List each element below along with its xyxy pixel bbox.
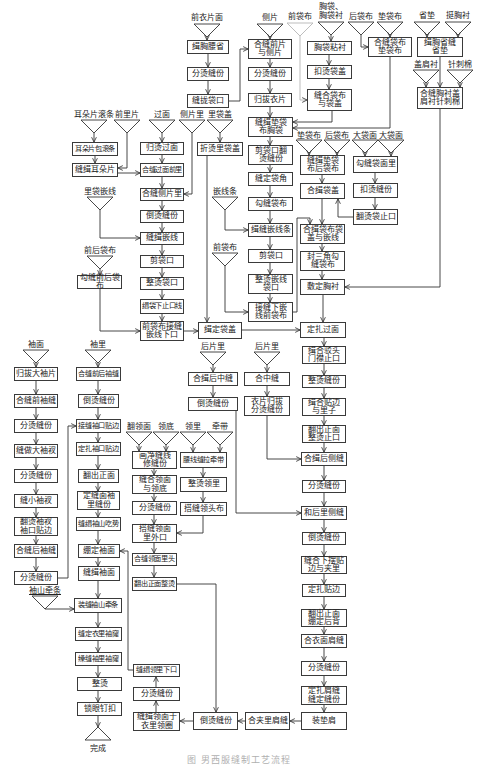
input-triangle-icon <box>413 70 439 83</box>
flow-arrow <box>225 210 248 230</box>
flow-arrow <box>338 199 353 217</box>
sleeve-step-join-lining-seams: 合缝前后袖缝 <box>76 367 121 381</box>
input-label-flap-shell-2: 大袋面 <box>379 131 403 140</box>
assembly-step-press-seam-3: 倒烫缝份 <box>302 532 346 545</box>
finish-step-final-press: 整烫 <box>77 677 122 691</box>
front-step-stitch-chest-dart: 缉胸腰省 <box>187 40 229 54</box>
input-triangle-icon <box>200 352 226 365</box>
pocket-step-cut-press: 剪袋口翻烫缝份 <box>248 145 293 165</box>
input-label-front-pocket-bag-2: 前袋布 <box>213 243 237 252</box>
pocket-step-join-lower-welt: 接缝下嵌线前袋布 <box>248 302 293 322</box>
flow-arrow <box>267 416 301 459</box>
sleeve-step-press-lining-seam: 倒烫缝份 <box>78 394 119 408</box>
sleeve-step-turn-right-side: 翻出正面 <box>78 469 119 483</box>
input-label-needle-felt: 针刺棉 <box>448 60 472 69</box>
pocket-step-join-bag-flap: 缝合袋布与袋盖 <box>307 89 352 111</box>
input-label-chest-pocket: 胸袋、胸袋衬 <box>318 2 344 20</box>
pocket-step-join-bag-facing: 合缝袋布垫袋布 <box>368 37 412 57</box>
input-triangle-icon <box>126 432 152 445</box>
sleeve-step-join-hem-facing: 接缝袖口贴边 <box>76 419 121 433</box>
pocket-step-sew-welt-strip: 缉缝嵌线条 <box>248 223 293 237</box>
collar-step-press-seam-2: 分烫缝份 <box>133 687 180 701</box>
assembly-step-attach-shoulder-pad: 装垫肩 <box>301 712 347 730</box>
flow-arrow <box>118 133 127 168</box>
pocket-step-join-bag-flap-welt: 合缉袋布袋盖与嵌线 <box>300 224 345 244</box>
sleeve-step-fix-shell-lining-seam: 定缝面袖里缝份 <box>77 491 120 510</box>
input-label-shoulder-canvas: 盖肩衬 <box>414 60 438 69</box>
flow-arrow <box>100 289 140 331</box>
input-triangle-icon <box>447 70 473 83</box>
input-label-back-pocket-bag: 后袋布 <box>349 12 373 21</box>
assembly-step-join-facing-lining: 缉合贴边与里子 <box>302 398 346 416</box>
assembly-step-press-seam-4: 分烫缝份 <box>301 661 347 676</box>
sleeve-step-baste-hem-facing: 定扎袖口贴边 <box>76 442 121 456</box>
lining-step-press-seam: 倒烫缝份 <box>140 210 184 223</box>
input-label-pocket-facing-2: 垫袋布 <box>297 131 321 140</box>
assembly-step-fix-shoulder-seam: 定扎肩缝缝定缝份 <box>301 686 347 705</box>
sleeve-step-press-seam-3: 分烫缝份 <box>14 571 58 585</box>
flow-arrow <box>300 36 307 100</box>
input-triangle-icon <box>207 432 233 445</box>
pocket-step-sew-bag: 勾缝袋布 <box>248 197 293 211</box>
flow-arrow <box>100 210 140 238</box>
input-triangle-icon <box>180 432 206 445</box>
finish-triangle-icon <box>85 727 111 740</box>
input-label-front-back-pocket-bag: 前后袋布 <box>84 246 116 255</box>
assembly-step-baste-hem: 定扎贴边 <box>302 584 346 597</box>
lining-step-sew-ear-piece: 缝缉耳朵片 <box>72 163 118 177</box>
flow-arrow <box>229 49 248 101</box>
input-triangle-icon <box>194 24 220 37</box>
pocket-step-bartack: 封三角勾缝袋布 <box>300 251 345 271</box>
input-triangle-icon <box>23 350 49 363</box>
canvas-step-join-chest-canvas: 合缝胸衬盖肩衬针刺棉 <box>417 87 463 109</box>
input-triangle-icon <box>378 140 404 153</box>
input-label-front-panel: 前衣片面 <box>191 13 223 22</box>
process-flowchart: 前衣片面 侧片 前袋布 胸袋、胸袋衬 后袋布 垫袋布 省垫 挺胸衬 盖肩衬 针刺… <box>0 0 478 765</box>
input-triangle-icon <box>296 140 322 153</box>
input-label-inner-flap: 里袋盖 <box>208 110 232 119</box>
sleeve-step-attach-head-strip: 装缝袖山牵条 <box>74 598 122 613</box>
input-label-front-lining: 前里片 <box>115 110 139 119</box>
finish-step-buttonholes-buttons: 锁眼钉扣 <box>77 702 122 716</box>
assembly-step-join-lining-shoulder: 合夹里肩缝 <box>245 712 290 730</box>
input-label-top-collar: 翻领面 <box>127 422 151 431</box>
input-triangle-icon <box>257 24 283 37</box>
assembly-step-press-seam-2: 分烫缝份 <box>302 480 346 493</box>
sleeve-step-set-sleeve: 缝缉袖面 <box>78 566 120 581</box>
input-triangle-icon <box>85 350 111 363</box>
sleeve-step-join-front-seam: 合缝前袖缝 <box>14 394 58 408</box>
input-label-inner-welt: 里袋嵌线 <box>84 187 116 196</box>
collar-step-turn-press: 翻出正面整烫 <box>132 577 177 591</box>
lining-step-stitch-lower-edge: 缉袋下止口线 <box>140 299 184 314</box>
input-triangle-icon <box>212 253 238 266</box>
input-triangle-icon <box>32 596 58 609</box>
input-label-welt-strip: 嵌线条 <box>213 187 237 196</box>
flow-arrow <box>58 426 76 578</box>
collar-step-join-top-base: 缝合领面与领底 <box>132 475 177 494</box>
input-label-back-lining-2: 后片里 <box>255 342 279 351</box>
sleeve-step-join-back-seam: 合缝后袖缝 <box>14 544 58 558</box>
lining-step-join-bag-welt: 前袋布接缝嵌线下口 <box>140 321 184 341</box>
sleeve-step-press-seam-2: 分烫缝份 <box>14 469 58 483</box>
input-label-back-pocket-bag-2: 后袋布 <box>325 131 349 140</box>
sleeve-step-blindstitch-armhole: 缲缝袖里袖窿 <box>75 652 122 666</box>
collar-step-join-collar-cloth: 搭缝领头布 <box>180 502 227 516</box>
back-step-join-center-back: 合缉后中缝 <box>188 372 238 386</box>
sleeve-step-shape-top-sleeve: 归拔大袖片 <box>14 367 58 381</box>
input-triangle-icon <box>87 197 113 210</box>
pocket-step-turn-press-flap: 翻烫袋止口 <box>353 209 398 225</box>
input-triangle-icon <box>212 197 238 210</box>
lining-step-join-facing-lining: 合缝过面前里 <box>140 163 184 177</box>
pocket-step-fix-corner: 缝定袋角 <box>248 172 293 186</box>
back-step-join-center: 合中缝 <box>244 372 290 386</box>
collar-step-press-under-collar: 整烫领里 <box>180 477 227 492</box>
input-label-side-lining: 侧片里 <box>180 110 204 119</box>
input-triangle-icon <box>114 120 140 133</box>
lining-step-press-mouth: 整烫袋口 <box>140 277 184 290</box>
pocket-step-sew-facing-back-bag: 缝缉垫袋布后袋布 <box>300 155 345 175</box>
back-step-shape-press: 衣片归拔分烫缝份 <box>244 396 290 416</box>
flow-arrow <box>225 266 248 312</box>
sleeve-step-baste-sleeve: 绷定袖面 <box>78 544 120 558</box>
front-step-join-side-panel: 合缝前片与侧片 <box>248 39 292 59</box>
input-triangle-icon <box>445 22 471 35</box>
